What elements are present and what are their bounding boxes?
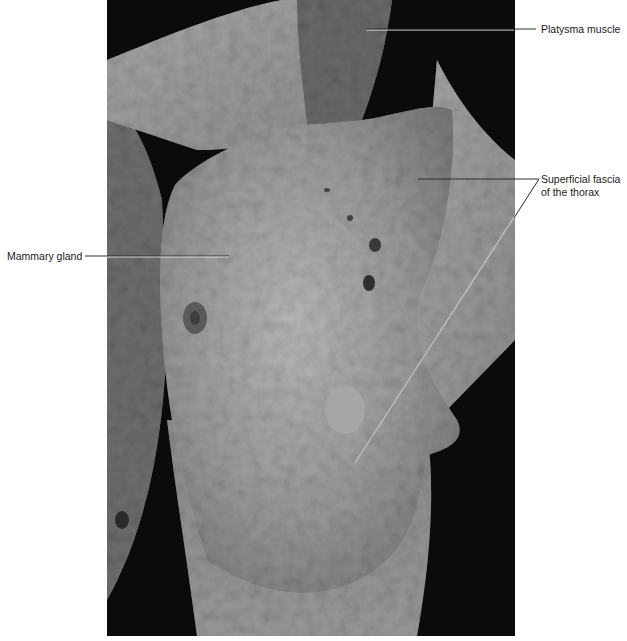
label-platysma-muscle: Platysma muscle [541, 23, 620, 35]
label-mammary-gland: Mammary gland [7, 250, 82, 262]
label-superficial-fascia-line1: Superficial fascia [541, 173, 620, 185]
photo-illustration [107, 0, 515, 636]
dissection-photo [107, 0, 515, 636]
label-superficial-fascia-line2: of the thorax [541, 186, 599, 198]
